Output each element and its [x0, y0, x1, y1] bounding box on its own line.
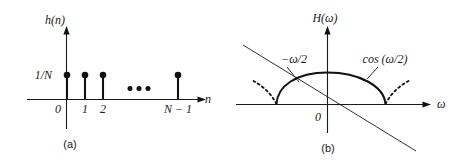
panel-a: h(n) n 1/N 0 1 2 N − 1 (a): [27, 13, 211, 150]
panel-b-phase-line-label: −ω/2: [281, 52, 307, 66]
panel-a-amplitude-label: 1/N: [35, 68, 53, 82]
panel-a-stem-n2: [100, 72, 107, 100]
panel-a-stem-n0: [64, 72, 71, 100]
panel-b-sidelobe-right-dashed: [386, 81, 409, 104]
panel-a-tick-label-2: 2: [100, 102, 106, 116]
panel-a-tick-label-last: N − 1: [163, 102, 192, 116]
panel-a-x-axis-label: n: [205, 92, 211, 106]
panel-b-horizontal-axis: [236, 101, 431, 107]
panel-a-y-axis-label: h(n): [45, 13, 65, 27]
panel-a-stem-n1: [82, 72, 89, 100]
panel-a-caption: (a): [63, 138, 76, 150]
panel-b-x-axis-label: ω: [437, 97, 445, 111]
figure-container: h(n) n 1/N 0 1 2 N − 1 (a): [0, 0, 460, 162]
panel-b-caption: (b): [321, 142, 334, 154]
panel-b-y-axis-label: H(ω): [311, 11, 337, 25]
panel-a-stem-n-last: [175, 72, 182, 100]
panel-a-tick-label-1: 1: [82, 102, 88, 116]
panel-b-sidelobe-left-dashed: [254, 81, 277, 104]
panel-b-magnitude-curve-label: cos (ω/2): [363, 52, 408, 66]
panel-b-origin-label: 0: [315, 110, 321, 124]
panel-a-tick-label-0: 0: [55, 102, 61, 116]
panel-a-ellipsis-icon: [128, 86, 151, 91]
panel-b: H(ω) ω 0 −ω/2 cos (ω/2) (b): [236, 11, 445, 154]
signal-processing-figure: h(n) n 1/N 0 1 2 N − 1 (a): [0, 0, 460, 162]
panel-b-curve-label-leader: [367, 67, 378, 79]
panel-b-vertical-axis: [324, 26, 330, 133]
